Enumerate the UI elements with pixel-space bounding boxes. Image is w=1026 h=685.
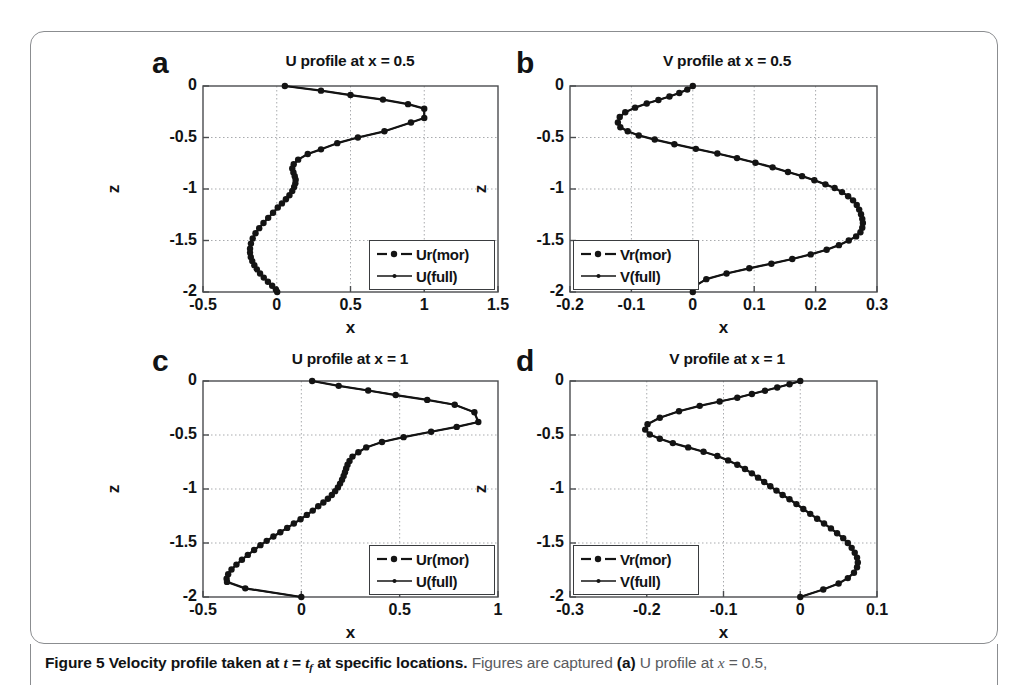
legend-dashed-circle-icon xyxy=(579,247,619,261)
figure-frame xyxy=(30,31,998,644)
legend-solid-dot-icon xyxy=(375,269,415,283)
legend-dashed-circle-icon xyxy=(375,552,415,566)
legend-c[interactable]: Ur(mor)U(full) xyxy=(369,545,495,595)
legend-solid-dot-icon xyxy=(579,574,619,588)
legend-item-b-1[interactable]: V(full) xyxy=(574,265,698,287)
legend-label-d-0: Vr(mor) xyxy=(620,551,671,568)
legend-label-c-0: Ur(mor) xyxy=(416,551,469,568)
legend-label-a-0: Ur(mor) xyxy=(416,246,469,263)
legend-item-c-0[interactable]: Ur(mor) xyxy=(370,548,494,570)
legend-d[interactable]: Vr(mor)V(full) xyxy=(573,545,699,595)
legend-label-b-0: Vr(mor) xyxy=(620,246,671,263)
legend-item-a-1[interactable]: U(full) xyxy=(370,265,494,287)
legend-item-a-0[interactable]: Ur(mor) xyxy=(370,243,494,265)
legend-solid-dot-icon xyxy=(375,574,415,588)
legend-b[interactable]: Vr(mor)V(full) xyxy=(573,240,699,290)
legend-item-d-1[interactable]: V(full) xyxy=(574,570,698,592)
legend-item-d-0[interactable]: Vr(mor) xyxy=(574,548,698,570)
legend-a[interactable]: Ur(mor)U(full) xyxy=(369,240,495,290)
legend-item-c-1[interactable]: U(full) xyxy=(370,570,494,592)
legend-label-b-1: V(full) xyxy=(620,268,660,285)
legend-solid-dot-icon xyxy=(579,269,619,283)
legend-item-b-0[interactable]: Vr(mor) xyxy=(574,243,698,265)
figure-caption-bar: Figure 5 Velocity profile taken at t = t… xyxy=(30,644,998,685)
legend-dashed-circle-icon xyxy=(579,552,619,566)
legend-dashed-circle-icon xyxy=(375,247,415,261)
figure-caption: Figure 5 Velocity profile taken at t = t… xyxy=(45,654,767,673)
legend-label-a-1: U(full) xyxy=(416,268,457,285)
legend-label-c-1: U(full) xyxy=(416,573,457,590)
legend-label-d-1: V(full) xyxy=(620,573,660,590)
